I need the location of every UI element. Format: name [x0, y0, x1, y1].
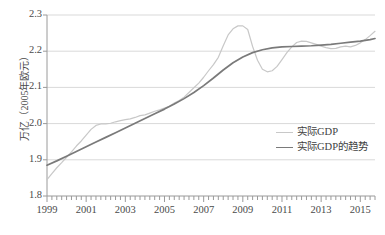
series-line-actual-gdp: [47, 26, 375, 180]
gdp-trend-chart: 万亿（2005年欧元） 1.81.92.02.12.22.3 199920012…: [0, 0, 385, 235]
legend-label-actual-gdp: 实际GDP: [297, 127, 338, 138]
legend-line-swatch-actual-gdp: [276, 132, 293, 133]
plot-area: [0, 0, 385, 235]
legend-line-swatch-trend: [276, 147, 293, 148]
legend-label-trend: 实际GDP的趋势: [297, 142, 368, 153]
chart-legend: 实际GDP 实际GDP的趋势: [276, 126, 368, 154]
legend-item-trend: 实际GDP的趋势: [276, 141, 368, 154]
legend-item-actual-gdp: 实际GDP: [276, 126, 368, 139]
